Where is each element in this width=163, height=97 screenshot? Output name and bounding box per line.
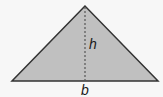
triangle-diagram: h b [0, 0, 163, 97]
height-label: h [89, 37, 97, 51]
base-label: b [81, 83, 89, 97]
